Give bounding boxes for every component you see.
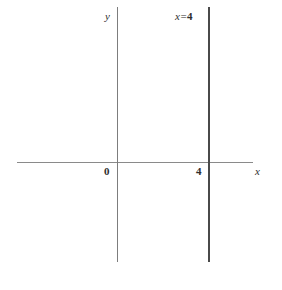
graph-figure: y x=4 0 4 x <box>0 0 282 290</box>
origin-tick-label: 0 <box>104 166 110 177</box>
graph-line-x-equals-4 <box>208 7 210 262</box>
x-axis-label: x <box>255 166 260 177</box>
x-tick-label-4: 4 <box>196 166 202 177</box>
equation-value: 4 <box>187 10 193 22</box>
equation-annotation: x=4 <box>175 11 193 22</box>
y-axis-label: y <box>105 11 110 22</box>
x-axis-line <box>17 162 253 163</box>
y-axis-line <box>117 7 118 262</box>
